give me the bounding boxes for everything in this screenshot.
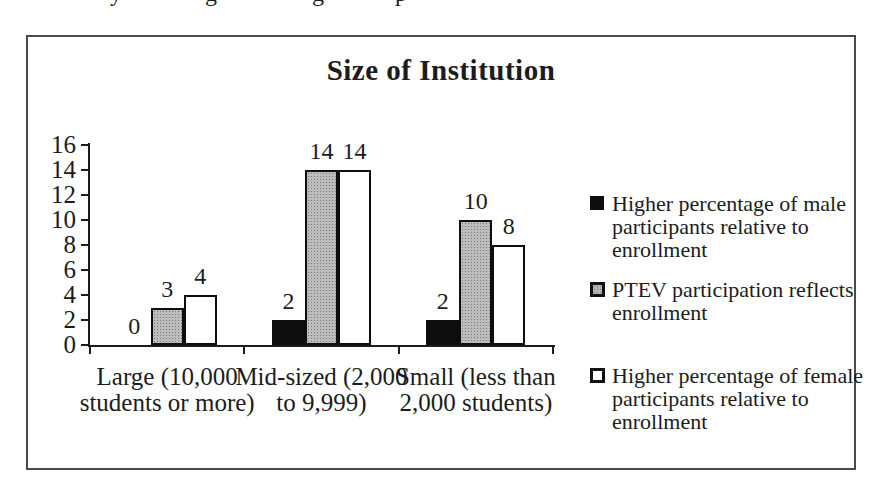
x-axis-category-label-line: 2,000 students) (371, 390, 581, 416)
x-axis-category-label-line: Small (less than (371, 364, 581, 390)
cropped-top-text-fragment: g (205, 0, 235, 6)
y-axis-tick (81, 144, 88, 146)
cropped-top-text-fragment: y (110, 0, 140, 6)
y-axis-tick-label: 14 (24, 156, 76, 184)
legend-item-label-line: participants relative to (612, 387, 809, 410)
bar-series3-cat3 (492, 245, 525, 345)
y-axis-tick-label: 16 (24, 131, 76, 159)
bar-value-label: 4 (178, 262, 222, 290)
legend-item-label-line: Higher percentage of male (612, 192, 846, 215)
y-axis-tick (81, 319, 88, 321)
y-axis-tick (81, 269, 88, 271)
y-axis-tick (81, 244, 88, 246)
x-axis-line (88, 345, 555, 347)
bar-value-label: 2 (267, 287, 311, 315)
y-axis-tick-label: 10 (24, 206, 76, 234)
y-axis-tick-label: 12 (24, 181, 76, 209)
y-axis-tick (81, 344, 88, 346)
bar-series3-cat2 (338, 170, 371, 345)
y-axis-line (88, 143, 90, 347)
bar-value-label: 2 (421, 287, 465, 315)
legend-item-label-line: Higher percentage of female (612, 364, 863, 387)
figure-canvas: Size of Institution yggp0246810121416034… (0, 0, 883, 501)
bar-series2-cat1 (151, 308, 184, 346)
bar-series1-cat2 (272, 320, 305, 345)
bar-value-label: 10 (454, 187, 498, 215)
plot-area: yggp0246810121416034214142108Large (10,0… (0, 0, 883, 501)
legend-item-label-line: PTEV participation reflects (612, 278, 854, 301)
x-axis-tick (89, 345, 91, 354)
legend-item-label-line: participants relative to (612, 215, 809, 238)
y-axis-tick-label: 6 (24, 256, 76, 284)
bar-series1-cat3 (426, 320, 459, 345)
x-axis-tick (398, 345, 400, 354)
legend-marker-gray-square (590, 282, 605, 297)
legend-item-label-line: enrollment (612, 238, 707, 261)
x-axis-category-label: Small (less than2,000 students) (371, 364, 581, 416)
y-axis-tick (81, 194, 88, 196)
bar-value-label: 14 (333, 137, 377, 165)
legend-marker-white-square (590, 368, 605, 383)
y-axis-tick-label: 4 (24, 281, 76, 309)
y-axis-tick (81, 294, 88, 296)
bar-series3-cat1 (184, 295, 217, 345)
y-axis-tick-label: 0 (24, 331, 76, 359)
bar-value-label: 0 (112, 312, 156, 340)
cropped-top-text-fragment: p (395, 0, 425, 6)
legend-marker-black-square (590, 196, 604, 210)
cropped-top-text-fragment: g (312, 0, 342, 6)
bar-series2-cat2 (305, 170, 338, 345)
y-axis-tick (81, 219, 88, 221)
y-axis-tick-label: 2 (24, 306, 76, 334)
legend-item-label-line: enrollment (612, 410, 707, 433)
x-axis-tick (243, 345, 245, 354)
bar-value-label: 8 (487, 212, 531, 240)
y-axis-tick-label: 8 (24, 231, 76, 259)
y-axis-tick (81, 169, 88, 171)
x-axis-tick (552, 345, 554, 354)
legend-item-label-line: enrollment (612, 301, 707, 324)
